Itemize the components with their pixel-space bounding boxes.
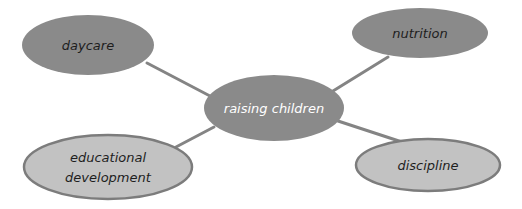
- connector-daycare: [147, 63, 210, 96]
- connector-discipline: [338, 121, 402, 142]
- node-label-daycare: daycare: [62, 38, 114, 53]
- node-label-nutrition: nutrition: [392, 26, 447, 41]
- node-daycare: daycare: [22, 15, 154, 75]
- node-educational-development: educationaldevelopment: [24, 135, 192, 199]
- node-label-educational-development-line-1: educational: [70, 150, 146, 165]
- connector-nutrition: [333, 57, 388, 91]
- connector-educational-development: [176, 127, 214, 147]
- node-label-discipline: discipline: [397, 158, 458, 173]
- node-discipline: discipline: [356, 139, 500, 191]
- center-node-raising-children: raising children: [204, 75, 344, 141]
- node-label-educational-development-line-2: development: [65, 170, 152, 185]
- mind-map-diagram: daycarenutritioneducationaldevelopmentdi…: [0, 0, 522, 209]
- node-nutrition: nutrition: [352, 8, 488, 58]
- node-ellipse-educational-development: [24, 135, 192, 199]
- center-label: raising children: [224, 101, 324, 116]
